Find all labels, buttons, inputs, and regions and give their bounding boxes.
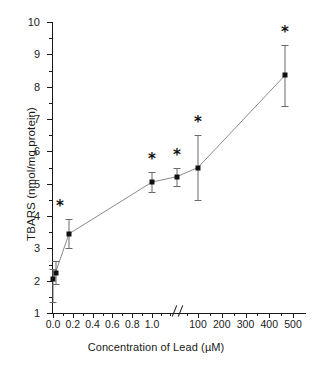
x-tick-minor xyxy=(257,313,258,316)
error-bar xyxy=(198,135,199,200)
y-tick-label: 9 xyxy=(18,49,40,59)
significance-asterisk: * xyxy=(173,150,181,160)
error-bar-cap-upper xyxy=(195,135,202,136)
error-bar-cap-upper xyxy=(282,45,289,46)
figure-tbars-vs-lead: TBARS (nmol/mg protein) 12345678910 0.00… xyxy=(0,0,312,369)
data-point-marker xyxy=(67,231,72,236)
error-bar xyxy=(177,168,178,186)
error-bar-cap-upper xyxy=(174,168,181,169)
y-axis-line xyxy=(52,22,53,314)
y-tick-label: 2 xyxy=(18,276,40,286)
y-tick-label: 8 xyxy=(18,82,40,92)
x-tick-minor xyxy=(103,313,104,316)
y-tick-label: 10 xyxy=(18,17,40,27)
error-bar-cap-lower xyxy=(174,186,181,187)
x-tick-minor xyxy=(122,313,123,316)
significance-asterisk: * xyxy=(148,154,156,164)
error-bar-cap-upper xyxy=(149,172,156,173)
significance-asterisk: * xyxy=(194,117,202,127)
error-bar-cap-upper xyxy=(66,219,73,220)
y-tick-label: 4 xyxy=(18,211,40,221)
x-tick-minor xyxy=(234,313,235,316)
y-tick-label: 3 xyxy=(18,243,40,253)
x-tick-minor xyxy=(142,313,143,316)
x-axis-label: Concentration of Lead (µM) xyxy=(0,341,312,353)
significance-asterisk: * xyxy=(281,27,289,37)
error-bar xyxy=(69,219,70,248)
y-tick-label: 6 xyxy=(18,146,40,156)
data-point-marker xyxy=(283,73,288,78)
significance-asterisk: * xyxy=(56,201,64,211)
data-point-marker xyxy=(175,174,180,179)
error-bar-cap-lower xyxy=(195,200,202,201)
error-bar xyxy=(285,45,286,106)
axis-break-slash-1 xyxy=(172,305,178,317)
axis-break-slash-2 xyxy=(178,305,184,317)
error-bar-cap-lower xyxy=(149,192,156,193)
y-axis-label: TBARS (nmol/mg protein) xyxy=(25,59,37,289)
x-tick-minor xyxy=(281,313,282,316)
data-point-marker xyxy=(53,270,58,275)
error-bar-cap-lower xyxy=(66,248,73,249)
x-tick-minor xyxy=(210,313,211,316)
x-tick-minor xyxy=(63,313,64,316)
data-point-marker xyxy=(150,180,155,185)
x-tick-minor xyxy=(161,313,162,316)
data-point-marker xyxy=(196,165,201,170)
error-bar xyxy=(152,172,153,191)
x-tick-label: 1.0 xyxy=(137,319,167,330)
y-tick-label: 5 xyxy=(18,179,40,189)
x-tick-label: 500 xyxy=(278,319,308,330)
series-polyline xyxy=(53,75,285,279)
x-tick-minor xyxy=(83,313,84,316)
error-bar-cap-lower xyxy=(282,106,289,107)
error-bar xyxy=(55,261,56,284)
y-tick-label: 1 xyxy=(18,308,40,318)
x-tick-minor xyxy=(187,313,188,316)
y-tick-label: 7 xyxy=(18,114,40,124)
